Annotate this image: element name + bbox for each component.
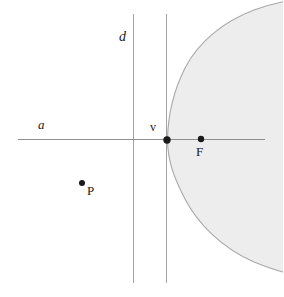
free-point-label: P bbox=[87, 184, 94, 197]
focus-point bbox=[198, 136, 204, 142]
parabola-shaded-region bbox=[168, 2, 284, 272]
vertex-label: v bbox=[150, 121, 156, 133]
diagram-canvas bbox=[0, 0, 283, 297]
axis-label: a bbox=[38, 118, 45, 131]
parabola-diagram: a d v F P bbox=[0, 0, 283, 297]
vertex-point bbox=[163, 136, 170, 143]
directrix-label: d bbox=[119, 30, 126, 44]
focus-label: F bbox=[196, 145, 203, 158]
free-point-p bbox=[79, 180, 85, 186]
